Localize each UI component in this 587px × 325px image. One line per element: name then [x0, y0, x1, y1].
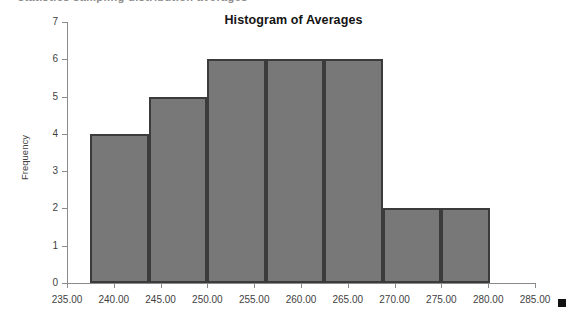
- histogram-bar: [383, 208, 441, 283]
- histogram-chart: Histogram of Averages Frequency 76543210…: [0, 0, 587, 325]
- x-axis-tick: [441, 283, 442, 288]
- y-axis-tick: [62, 134, 67, 135]
- y-axis-tick-label: 7: [30, 17, 58, 27]
- chart-title: Histogram of Averages: [0, 13, 587, 27]
- x-axis-tick: [114, 283, 115, 288]
- x-axis-tick: [207, 283, 208, 288]
- y-axis-tick: [62, 97, 67, 98]
- histogram-bar: [441, 208, 490, 283]
- y-axis-tick-label: 4: [30, 129, 58, 139]
- x-axis-tick: [488, 283, 489, 288]
- y-axis-tick-label: 3: [30, 166, 58, 176]
- histogram-bar: [266, 59, 324, 283]
- y-axis-tick-label: 1: [30, 241, 58, 251]
- y-axis-tick: [62, 22, 67, 23]
- histogram-bar: [207, 59, 266, 283]
- histogram-bar: [90, 134, 149, 283]
- y-axis-label: Frequency: [19, 113, 30, 203]
- y-axis-tick-label: 0: [30, 278, 58, 288]
- y-axis-tick-label: 2: [30, 203, 58, 213]
- y-axis-tick: [62, 171, 67, 172]
- x-axis-tick: [67, 283, 68, 288]
- x-axis-tick: [254, 283, 255, 288]
- x-axis-tick: [301, 283, 302, 288]
- y-axis-tick-label: 5: [30, 92, 58, 102]
- x-axis-tick: [348, 283, 349, 288]
- x-axis-tick: [395, 283, 396, 288]
- y-axis-tick: [62, 246, 67, 247]
- x-axis-tick: [161, 283, 162, 288]
- x-axis-tick-label: 285.00: [505, 294, 565, 305]
- x-axis-tick: [535, 283, 536, 288]
- y-axis-tick: [62, 59, 67, 60]
- y-axis-tick-label: 6: [30, 54, 58, 64]
- histogram-bar: [149, 97, 207, 283]
- y-axis-tick: [62, 208, 67, 209]
- histogram-bar: [324, 59, 383, 283]
- series-swatch-icon: [558, 299, 566, 307]
- y-axis-line: [67, 22, 68, 284]
